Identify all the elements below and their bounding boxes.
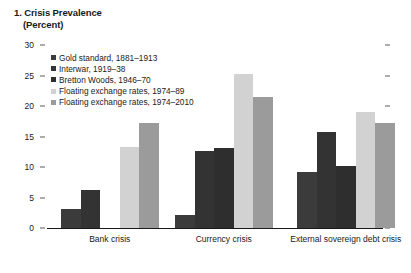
y-axis-tick-label: 10 bbox=[6, 162, 34, 172]
y-axis-tick-label: 30 bbox=[6, 40, 34, 50]
bar[interactable] bbox=[234, 74, 254, 228]
chart-unit-label: (Percent) bbox=[14, 19, 102, 31]
y-axis-tick-label: 20 bbox=[6, 101, 34, 111]
bar[interactable] bbox=[214, 148, 234, 228]
y-axis-tick-label: 15 bbox=[6, 132, 34, 142]
page-title: 1. Crisis Prevalence bbox=[14, 7, 102, 19]
bar[interactable] bbox=[175, 215, 195, 228]
bar[interactable] bbox=[139, 123, 159, 228]
x-axis-category-label: External sovereign debt crisis bbox=[286, 234, 406, 245]
y-axis-tick-mark bbox=[40, 228, 45, 229]
y-axis-tick-label: 0 bbox=[6, 223, 34, 233]
bar[interactable] bbox=[195, 151, 215, 228]
bar[interactable] bbox=[336, 166, 356, 228]
bar-group bbox=[297, 45, 395, 228]
bar-group bbox=[61, 45, 159, 228]
bar[interactable] bbox=[356, 112, 376, 228]
bar[interactable] bbox=[81, 190, 101, 228]
y-axis-tick-label: 25 bbox=[6, 71, 34, 81]
bar[interactable] bbox=[297, 172, 317, 228]
chart-figure: 1. Crisis Prevalence (Percent) 302520151… bbox=[0, 0, 411, 273]
y-axis-tick-mark bbox=[40, 136, 45, 137]
bar[interactable] bbox=[375, 123, 395, 228]
plot-area bbox=[47, 45, 381, 228]
bar[interactable] bbox=[120, 147, 140, 228]
bar-group bbox=[175, 45, 273, 228]
x-axis-baseline bbox=[47, 228, 383, 229]
y-axis-tick-label: 5 bbox=[6, 193, 34, 203]
x-axis-category-label: Currency crisis bbox=[164, 234, 284, 245]
y-axis-tick-mark bbox=[40, 45, 45, 46]
bar[interactable] bbox=[317, 132, 337, 228]
y-axis-tick-mark bbox=[40, 167, 45, 168]
bar[interactable] bbox=[253, 97, 273, 228]
bar[interactable] bbox=[61, 209, 81, 228]
y-axis-tick-mark bbox=[40, 106, 45, 107]
x-axis-category-label: Bank crisis bbox=[50, 234, 170, 245]
chart-title-block: 1. Crisis Prevalence (Percent) bbox=[14, 7, 102, 31]
y-axis-tick-mark bbox=[40, 197, 45, 198]
y-axis-tick-mark bbox=[40, 75, 45, 76]
